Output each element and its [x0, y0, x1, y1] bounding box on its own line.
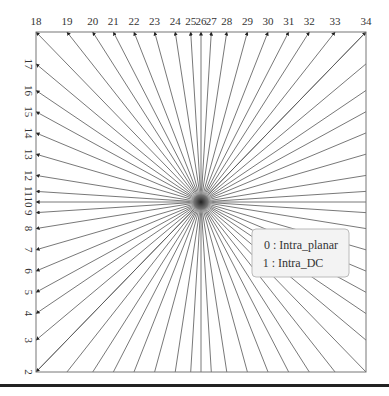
- mode-label: 31: [283, 15, 294, 27]
- mode-label: 14: [23, 127, 35, 139]
- mode-label: 7: [23, 247, 35, 253]
- mode-label: 4: [23, 311, 35, 317]
- mode-label: 29: [242, 15, 254, 27]
- mode-label: 21: [108, 15, 119, 27]
- mode-label: 19: [61, 15, 73, 27]
- mode-label: 23: [149, 15, 161, 27]
- mode-label: 6: [23, 268, 35, 274]
- mode-label: 32: [304, 15, 315, 27]
- left-mode-labels: 171615141312111098765432: [23, 58, 35, 374]
- mode-label: 16: [23, 85, 35, 97]
- mode-label: 20: [87, 15, 99, 27]
- top-mode-labels: 1819202122232425262728293031323334: [31, 15, 373, 27]
- mode-label: 8: [23, 226, 35, 232]
- mode-label: 18: [31, 15, 43, 27]
- intra-mode-diagram: 1819202122232425262728293031323334 17161…: [0, 0, 389, 396]
- center-point: [189, 190, 213, 214]
- mode-label: 22: [128, 15, 139, 27]
- mode-label: 15: [23, 106, 35, 118]
- mode-label: 27: [206, 15, 218, 27]
- mode-label: 34: [361, 15, 373, 27]
- bottom-separator: [0, 384, 389, 387]
- mode-label: 30: [263, 15, 275, 27]
- legend-item-planar: 0 : Intra_planar: [264, 238, 338, 252]
- mode-label: 9: [23, 210, 35, 216]
- mode-label: 10: [23, 197, 35, 209]
- mode-label: 12: [23, 170, 35, 181]
- mode-label: 24: [170, 15, 182, 27]
- mode-label: 2: [23, 369, 35, 375]
- legend-item-dc: 1 : Intra_DC: [263, 256, 324, 270]
- mode-label: 5: [23, 290, 35, 296]
- mode-label: 3: [23, 337, 35, 343]
- mode-label: 28: [221, 15, 233, 27]
- mode-label: 17: [23, 58, 35, 70]
- mode-label: 13: [23, 149, 35, 161]
- mode-label: 33: [330, 15, 342, 27]
- mode-label: 11: [23, 186, 35, 197]
- legend: 0 : Intra_planar 1 : Intra_DC: [252, 229, 349, 277]
